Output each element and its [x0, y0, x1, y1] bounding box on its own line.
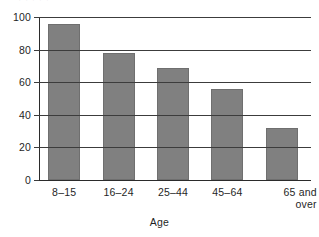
gridline	[39, 82, 311, 83]
bar	[266, 128, 298, 180]
y-axis-tick-label: 100	[3, 12, 31, 23]
y-axis-tick	[34, 180, 39, 181]
y-axis-tick	[34, 115, 39, 116]
bar	[48, 24, 80, 180]
y-axis-tick	[34, 82, 39, 83]
y-axis-tick	[34, 17, 39, 18]
y-axis-tick-label: 40	[3, 110, 31, 121]
y-axis-tick-label: 60	[3, 77, 31, 88]
gridline	[39, 50, 311, 51]
bars-layer	[39, 17, 311, 180]
bar	[103, 53, 135, 180]
y-axis-tick	[34, 50, 39, 51]
cropped-title-remnant: · · · · ·	[18, 0, 193, 2]
x-axis-labels: 8–1516–2425–4445–6465 and over	[39, 186, 311, 220]
y-axis-tick-label: 80	[3, 45, 31, 56]
y-axis-tick	[34, 147, 39, 148]
y-axis-labels: 020406080100	[0, 0, 31, 237]
bar	[157, 68, 189, 180]
gridline	[39, 17, 311, 18]
plot-area	[39, 17, 311, 180]
x-axis-tick-label: 65 and over	[247, 186, 317, 210]
y-axis-tick-label: 0	[3, 175, 31, 186]
y-axis-tick-label: 20	[3, 142, 31, 153]
bar-chart-figure: · · · · · 020406080100 8–1516–2425–4445–…	[0, 0, 319, 237]
gridline	[39, 147, 311, 148]
x-axis-baseline	[39, 180, 311, 181]
bar	[211, 89, 243, 180]
x-axis-title: Age	[0, 216, 319, 228]
gridline	[39, 115, 311, 116]
